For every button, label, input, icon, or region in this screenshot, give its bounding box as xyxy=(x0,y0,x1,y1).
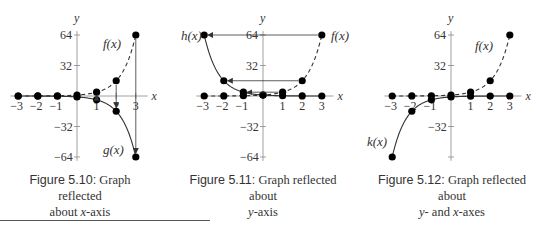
curve-label: f(x) xyxy=(475,38,493,53)
y-tick-label: 64 xyxy=(434,28,446,42)
y-axis-label: y xyxy=(73,11,80,25)
caption-text: Graph reflected about xyxy=(249,173,336,203)
data-point xyxy=(73,93,80,100)
y-axis-label: y xyxy=(447,11,454,25)
data-point xyxy=(54,93,61,100)
x-tick-label: −3 xyxy=(196,99,209,113)
figure-number: Figure 5.10: xyxy=(29,173,96,187)
x-tick-label: −3 xyxy=(384,99,397,113)
y-tick-label: 32 xyxy=(246,59,258,73)
caption-figure-5-12: Figure 5.12: Graph reflected about y- an… xyxy=(372,172,532,220)
data-point xyxy=(467,93,474,100)
x-tick-label: 3 xyxy=(319,99,325,113)
x-tick-label: 2 xyxy=(299,99,305,113)
data-point xyxy=(113,108,120,115)
data-point xyxy=(299,77,306,84)
x-tick-label: 3 xyxy=(507,99,513,113)
y-tick-label: 64 xyxy=(60,28,72,42)
y-tick-label: 32 xyxy=(60,59,72,73)
curve-label: k(x) xyxy=(367,134,387,149)
data-point xyxy=(93,89,100,96)
y-tick-label: −64 xyxy=(240,150,259,164)
x-tick-label: −3 xyxy=(10,99,23,113)
data-point xyxy=(506,92,513,99)
data-point xyxy=(318,31,325,38)
x-axis-label: x xyxy=(150,89,157,103)
figure-number: Figure 5.11: xyxy=(190,173,256,187)
y-axis-label: y xyxy=(259,11,266,25)
curve-label: f(x) xyxy=(331,28,349,43)
data-point xyxy=(506,31,513,38)
footnote-rule xyxy=(0,220,210,221)
curve-label: h(x) xyxy=(181,28,202,43)
x-tick-label: −1 xyxy=(49,99,62,113)
data-point xyxy=(487,92,494,99)
x-tick-label: 2 xyxy=(487,99,493,113)
caption-figure-5-10: Figure 5.10: Graph reflected about x-axi… xyxy=(10,172,150,220)
data-point xyxy=(408,108,415,115)
data-point xyxy=(318,92,325,99)
data-point xyxy=(132,153,139,160)
data-point xyxy=(93,96,100,103)
x-tick-label: −2 xyxy=(30,99,43,113)
data-point xyxy=(220,92,227,99)
curve-label: f(x) xyxy=(103,36,121,51)
x-tick-label: 1 xyxy=(280,99,286,113)
data-point xyxy=(113,77,120,84)
chart-figure-5-12: xy−3−2−11236432−32f(x)k(x) xyxy=(367,11,531,161)
y-tick-label: −32 xyxy=(428,120,447,134)
chart-figure-5-10: xy−3−2−11236432−32−64f(x)g(x) xyxy=(10,11,157,164)
data-point xyxy=(408,92,415,99)
y-tick-label: 32 xyxy=(434,59,446,73)
curve-label: g(x) xyxy=(103,142,124,157)
y-tick-label: −64 xyxy=(54,150,73,164)
y-tick-label: −32 xyxy=(54,120,73,134)
data-point xyxy=(132,31,139,38)
data-point xyxy=(220,77,227,84)
data-point xyxy=(201,92,208,99)
data-point xyxy=(15,92,22,99)
data-point xyxy=(240,89,247,96)
data-point xyxy=(447,93,454,100)
data-point xyxy=(299,92,306,99)
data-point xyxy=(487,77,494,84)
data-point xyxy=(428,96,435,103)
x-tick-label: 1 xyxy=(468,99,474,113)
x-tick-label: −2 xyxy=(216,99,229,113)
data-point xyxy=(389,153,396,160)
data-point xyxy=(389,92,396,99)
x-tick-label: −1 xyxy=(235,99,248,113)
x-axis-label: x xyxy=(336,89,343,103)
chart-figure-5-11: xy−3−2−11236432−32−64h(x)f(x) xyxy=(181,11,349,164)
x-axis-label: x xyxy=(524,89,531,103)
figure-number: Figure 5.12: xyxy=(378,173,445,187)
data-point xyxy=(34,92,41,99)
caption-figure-5-11: Figure 5.11: Graph reflected about y-axi… xyxy=(183,172,343,220)
data-point xyxy=(279,92,286,99)
y-tick-label: −32 xyxy=(240,120,259,134)
caption-text: Graph reflected about xyxy=(438,173,526,203)
